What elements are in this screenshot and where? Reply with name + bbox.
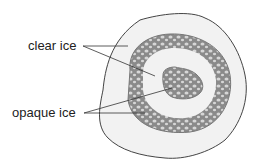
- opaque-ice-label: opaque ice: [12, 105, 76, 120]
- hailstone-diagram: [0, 0, 258, 168]
- clear-ice-label: clear ice: [28, 38, 76, 53]
